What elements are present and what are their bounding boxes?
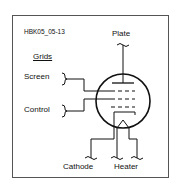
screen-brace [62,73,67,85]
control-lead [66,99,111,111]
tube-symbol [0,0,180,193]
heater-lead-right [129,128,137,158]
control-brace [62,105,67,117]
heater-filament [117,120,129,128]
cathode-lead [91,123,114,158]
